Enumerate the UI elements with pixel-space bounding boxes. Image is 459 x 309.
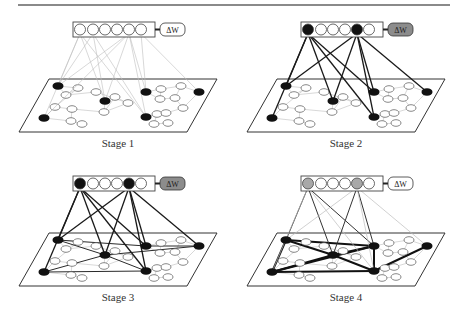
top-node-black <box>352 24 363 35</box>
stage-caption: Stage 2 <box>330 137 363 149</box>
hub-node <box>141 113 152 121</box>
white-node <box>73 239 83 246</box>
white-node <box>389 264 399 271</box>
white-node <box>66 272 76 279</box>
top-node-empty <box>75 24 86 35</box>
delta-w-label: ΔW <box>166 26 179 35</box>
top-node-empty <box>136 24 147 35</box>
white-node <box>319 89 329 96</box>
top-node-empty <box>316 178 327 189</box>
hub-node <box>369 242 380 250</box>
hub-node <box>422 242 433 250</box>
white-node <box>383 96 393 103</box>
white-node <box>398 95 408 102</box>
white-node <box>170 249 180 256</box>
white-node <box>327 263 337 270</box>
white-node <box>404 237 414 244</box>
stage-caption: Stage 4 <box>330 291 363 303</box>
white-node <box>66 118 76 125</box>
white-node <box>319 243 329 250</box>
top-node-black <box>75 178 86 189</box>
top-node-empty <box>364 178 375 189</box>
stage-caption: Stage 3 <box>102 291 135 303</box>
top-node-gray <box>303 178 314 189</box>
white-node <box>289 92 299 99</box>
panel-stage-4: ΔWStage 4 <box>247 176 445 303</box>
hub-node <box>194 242 205 250</box>
white-node <box>327 109 337 116</box>
hub-node <box>53 82 64 90</box>
strong-edge <box>272 271 374 272</box>
white-node <box>67 106 77 113</box>
hub-node <box>369 267 380 275</box>
top-node-empty <box>340 178 351 189</box>
white-node <box>305 121 315 128</box>
white-node <box>305 275 315 282</box>
white-node <box>156 86 166 93</box>
white-node <box>294 272 304 279</box>
white-node <box>170 95 180 102</box>
white-node <box>278 258 288 265</box>
white-node <box>176 237 186 244</box>
white-node <box>301 85 311 92</box>
white-node <box>377 275 387 282</box>
white-node <box>338 94 348 101</box>
white-node <box>295 260 305 267</box>
white-node <box>77 121 87 128</box>
white-node <box>161 110 171 117</box>
panel-stage-3: ΔWStage 3 <box>19 176 217 303</box>
white-node <box>50 258 60 265</box>
white-node <box>149 121 159 128</box>
white-node <box>176 83 186 90</box>
white-node <box>152 265 162 272</box>
white-node <box>91 89 101 96</box>
panel-stage-2: ΔWStage 2 <box>247 22 445 149</box>
white-node <box>384 240 394 247</box>
white-node <box>152 111 162 118</box>
stage-caption: Stage 1 <box>102 137 135 149</box>
white-node <box>99 263 109 270</box>
white-node <box>163 274 173 281</box>
hub-node <box>422 88 433 96</box>
white-node <box>99 109 109 116</box>
top-node-empty <box>100 24 111 35</box>
hub-node <box>100 251 111 259</box>
hub-node <box>141 88 152 96</box>
white-node <box>406 259 416 266</box>
white-node <box>404 83 414 90</box>
top-node-black <box>124 178 135 189</box>
white-node <box>380 111 390 118</box>
white-node <box>123 100 133 107</box>
hub-node <box>267 114 278 122</box>
white-node <box>294 118 304 125</box>
white-node <box>149 275 159 282</box>
white-node <box>67 260 77 267</box>
white-node <box>110 94 120 101</box>
hub-node <box>194 88 205 96</box>
white-node <box>377 121 387 128</box>
hub-node <box>141 267 152 275</box>
white-node <box>178 105 188 112</box>
top-node-empty <box>88 24 99 35</box>
top-node-empty <box>328 24 339 35</box>
white-node <box>77 275 87 282</box>
delta-w-label: ΔW <box>166 180 179 189</box>
hub-node <box>100 97 111 105</box>
top-node-black <box>303 24 314 35</box>
top-node-empty <box>316 24 327 35</box>
hub-node <box>281 236 292 244</box>
hub-node <box>53 236 64 244</box>
white-node <box>61 246 71 253</box>
plane <box>19 79 217 132</box>
white-node <box>380 265 390 272</box>
top-node-empty <box>136 178 147 189</box>
top-node-empty <box>364 24 375 35</box>
top-node-empty <box>328 178 339 189</box>
hub-node <box>141 242 152 250</box>
hub-node <box>369 113 380 121</box>
white-node <box>156 240 166 247</box>
panel-stage-1: ΔWStage 1 <box>19 22 217 149</box>
white-node <box>351 254 361 261</box>
white-node <box>391 274 401 281</box>
white-node <box>384 86 394 93</box>
